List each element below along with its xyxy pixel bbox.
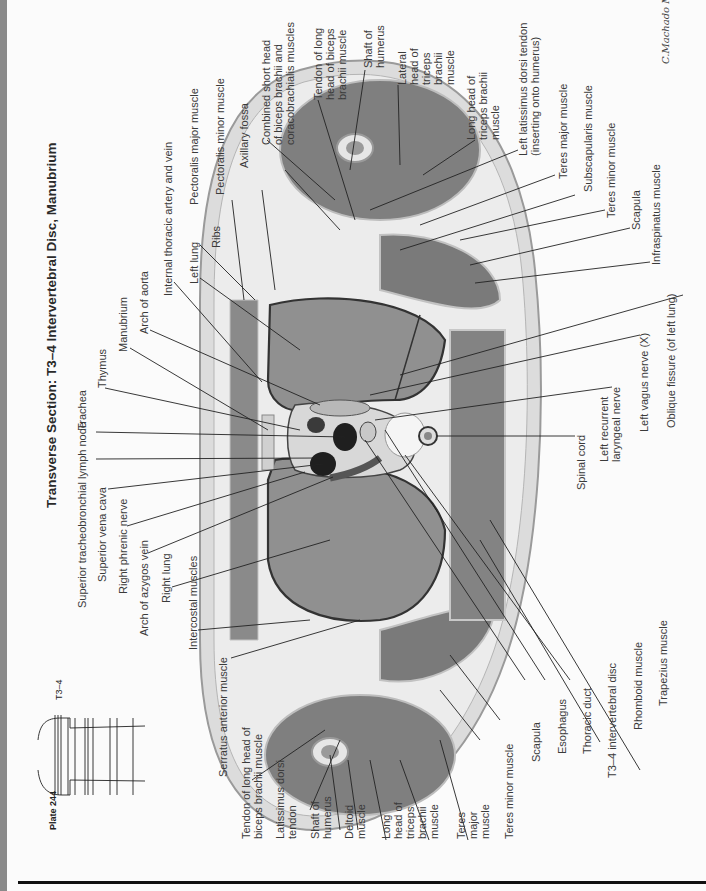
label-left-vagus-nerve: Left vagus nerve (X) [638,333,650,432]
label-lateral-head-triceps: Lateral head of triceps brachii muscle [396,48,456,85]
label-arch-of-aorta: Arch of aorta [138,271,150,334]
label-pectoralis-minor-muscle: Pectoralis minor muscle [214,78,226,195]
label-left-recurrent-laryngeal-nerve: Left recurrent laryngeal nerve [598,387,622,462]
label-esophagus: Esophagus [556,699,568,754]
vertebral-level-label: T3–4 [54,679,64,700]
lymph-node [307,417,325,433]
artist-signature: C.Machado M.D. [660,0,671,64]
label-right-phrenic-nerve: Right phrenic nerve [117,499,129,594]
label-teres-minor-muscle-right: Teres minor muscle [503,744,515,839]
label-teres-major-muscle-right: Teres major muscle [455,804,491,839]
page-bottom-rule [18,881,706,884]
label-spinal-cord: Spinal cord [575,435,587,490]
label-intercostal-muscles: Intercostal muscles [187,556,199,650]
label-manubrium: Manubrium [117,297,129,352]
label-rhomboid-muscle: Rhomboid muscle [632,642,644,730]
left-arm-muscles [280,80,480,220]
label-tendon-long-head-biceps-right: Tendon of long head of biceps brachii mu… [240,727,264,839]
label-long-head-triceps-left: Long head of triceps brachii muscle [465,72,501,140]
label-ribs: Ribs [210,226,222,248]
label-left-lung: Left lung [188,242,200,284]
back-muscles [450,330,505,620]
label-tendon-long-head-biceps-left: Tendon of long head of biceps brachii mu… [312,28,348,100]
label-long-head-triceps-right: Long head of triceps brachii muscle [380,802,440,839]
plate-title: Transverse Section: T3–4 Intervertebral … [44,143,59,508]
label-oblique-fissure: Oblique fissure (of left lung) [665,293,677,428]
label-pectoralis-major-muscle: Pectoralis major muscle [188,88,200,205]
label-arch-of-azygos-vein: Arch of azygos vein [138,540,150,636]
label-trachea: Trachea [76,390,88,430]
label-infraspinatus-muscle: Infraspinatus muscle [650,164,662,265]
label-scapula-right: Scapula [530,722,542,762]
label-scapula-left: Scapula [630,190,642,230]
label-superior-tracheobronchial-lymph-node: Superior tracheobronchial lymph node [76,422,88,608]
level-key-diagram [38,715,145,795]
label-axillary-fossa: Axillary fossa [238,103,250,168]
label-t3-4-intervertebral-disc: T3–4 intervertebral disc [606,663,618,778]
label-combined-short-head: Combined short head of biceps brachii an… [260,22,296,145]
label-right-lung: Right lung [160,553,172,603]
label-deltoid-muscle: Deltoid muscle [343,804,367,839]
label-latissimus-dorsi-tendon: Latissimus dorsi tendon [274,760,298,839]
label-internal-thoracic-artery-and-vein: Internal thoracic artery and vein [162,142,174,296]
esophagus [360,422,376,442]
label-teres-minor-muscle-left: Teres minor muscle [605,123,617,218]
label-trapezius-muscle: Trapezius muscle [657,620,669,706]
label-left-latissimus-dorsi-tendon: Left latissimus dorsi tendon (inserting … [517,23,541,156]
label-serratus-anterior-muscle: Serratus anterior muscle [217,657,229,777]
aortic-arch [310,400,370,416]
label-thoracic-duct: Thoracic duct [581,688,593,754]
label-shaft-of-humerus-left: Shaft of humerus [362,25,386,68]
label-thymus: Thymus [96,349,108,388]
label-superior-vena-cava: Superior vena cava [96,487,108,582]
label-teres-major-muscle-left: Teres major muscle [557,84,569,179]
plate-number: Plate 244 [48,791,58,830]
label-shaft-of-humerus-right: Shaft of humerus [309,796,333,839]
label-subscapularis-muscle: Subscapularis muscle [582,85,594,192]
